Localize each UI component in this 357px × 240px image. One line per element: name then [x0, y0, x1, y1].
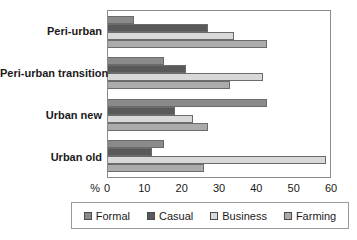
x-tick-label: 60 — [325, 182, 337, 194]
legend-swatch-farming — [284, 212, 292, 220]
bar-farming — [108, 164, 204, 172]
category-label: Peri-urban transition — [0, 66, 102, 80]
bar-farming — [108, 123, 208, 131]
legend-label: Farming — [296, 210, 336, 222]
legend-swatch-casual — [147, 212, 155, 220]
x-tick-label: 0 — [104, 182, 110, 194]
bar-casual — [108, 107, 175, 115]
x-tick-label: 10 — [138, 182, 150, 194]
bar-farming — [108, 40, 267, 48]
bar-business — [108, 115, 193, 123]
bar-group — [108, 53, 330, 95]
bar-business — [108, 32, 234, 40]
legend-swatch-business — [210, 212, 218, 220]
bar-group — [108, 94, 330, 136]
legend-item: Casual — [147, 210, 193, 222]
category-label: Urban old — [0, 150, 102, 164]
legend-item: Formal — [84, 210, 130, 222]
bar-casual — [108, 148, 152, 156]
bar-formal — [108, 99, 267, 107]
bar-formal — [108, 16, 134, 24]
bar-casual — [108, 65, 186, 73]
plot-area — [107, 10, 331, 178]
bar-business — [108, 156, 326, 164]
bar-chart-figure: Peri-urbanPeri-urban transitionUrban new… — [0, 0, 357, 240]
x-tick-label: 30 — [213, 182, 225, 194]
legend-item: Farming — [284, 210, 336, 222]
legend: FormalCasualBusinessFarming — [71, 202, 349, 229]
bar-group — [108, 11, 330, 53]
bar-farming — [108, 81, 230, 89]
x-axis-unit-label: % — [84, 182, 100, 194]
bar-group — [108, 136, 330, 178]
x-tick-label: 20 — [176, 182, 188, 194]
bar-business — [108, 73, 263, 81]
legend-item: Business — [210, 210, 267, 222]
x-tick-label: 50 — [288, 182, 300, 194]
category-label: Peri-urban — [0, 24, 102, 38]
legend-label: Formal — [96, 210, 130, 222]
bar-formal — [108, 57, 164, 65]
bar-formal — [108, 140, 164, 148]
legend-label: Casual — [159, 210, 193, 222]
x-tick-label: 40 — [250, 182, 262, 194]
legend-swatch-formal — [84, 212, 92, 220]
legend-label: Business — [222, 210, 267, 222]
bar-casual — [108, 24, 208, 32]
category-label: Urban new — [0, 108, 102, 122]
